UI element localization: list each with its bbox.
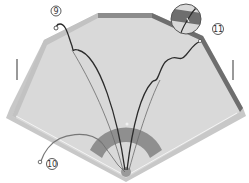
- baseball-field-diagram: 9 11 10: [0, 0, 249, 183]
- callout-9: 9: [51, 6, 61, 16]
- callout-9-label: 9: [53, 7, 58, 16]
- callout-10: 10: [47, 159, 58, 170]
- outfield-wall: [98, 13, 152, 18]
- callout-11: 11: [213, 24, 224, 35]
- trajectory-11-end-marker: [198, 39, 201, 42]
- callout-10-label: 10: [47, 160, 57, 169]
- pitchers-mound: [126, 123, 129, 126]
- trajectory-10-end-marker: [38, 160, 42, 164]
- trajectory-9-end-marker: [54, 26, 58, 30]
- callout-11-label: 11: [213, 25, 223, 34]
